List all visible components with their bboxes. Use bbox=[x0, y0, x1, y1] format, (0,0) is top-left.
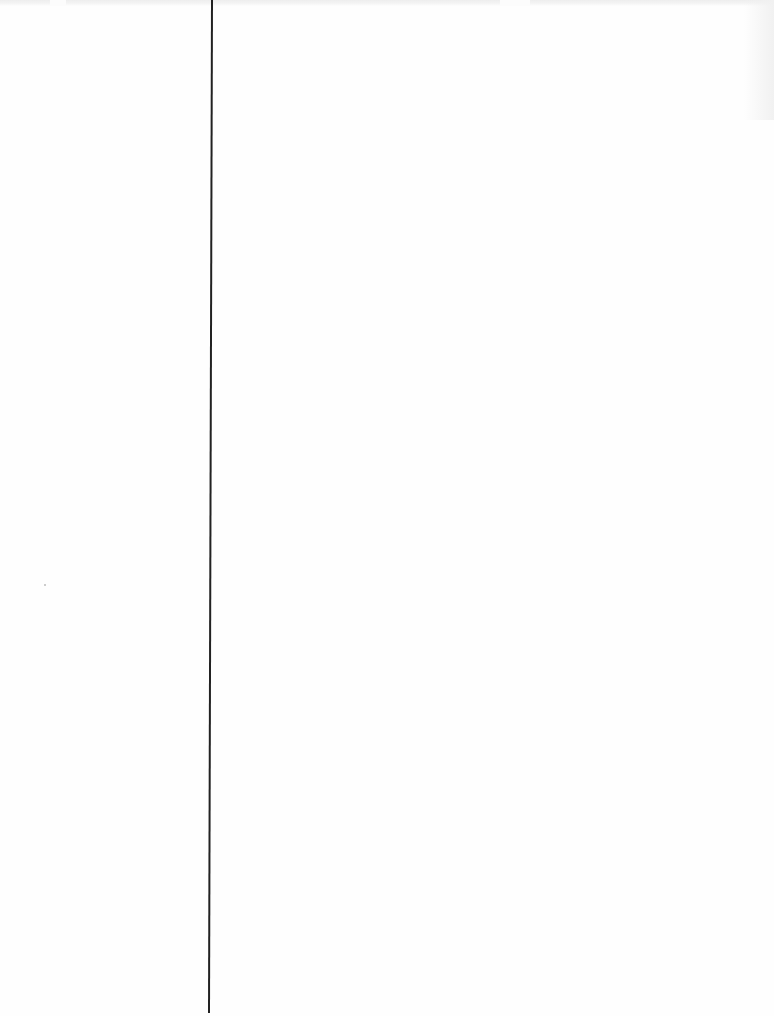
top-bleed-through bbox=[0, 0, 774, 6]
edge-shading bbox=[744, 0, 774, 120]
document-page bbox=[0, 0, 774, 1016]
bleed-gap bbox=[50, 0, 66, 6]
bleed-gap bbox=[500, 0, 530, 6]
scan-speck bbox=[44, 584, 46, 586]
vertical-margin-rule bbox=[208, 0, 213, 1013]
